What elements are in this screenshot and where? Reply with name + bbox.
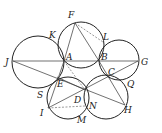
label-L: L: [102, 32, 109, 42]
label-N: N: [88, 101, 98, 111]
label-K: K: [48, 30, 57, 40]
dashed-FL: [75, 23, 103, 42]
line-FB: [75, 23, 99, 61]
label-B: B: [100, 52, 108, 62]
label-S: S: [37, 90, 43, 100]
label-H: H: [123, 105, 132, 115]
label-E: E: [56, 79, 64, 89]
dashed-AD: [64, 61, 85, 90]
label-J: J: [3, 57, 10, 67]
label-M: M: [76, 115, 87, 125]
label-I: I: [39, 108, 44, 118]
label-Q: Q: [127, 79, 135, 89]
geometry-diagram: F K L J A B G C E Q S D N I M H: [0, 0, 162, 133]
label-F: F: [67, 10, 75, 20]
label-D: D: [73, 95, 81, 105]
circle-bottom-right: [84, 75, 128, 119]
label-C: C: [108, 67, 115, 77]
circle-bottom-left: [47, 77, 89, 119]
dashed-IN: [48, 106, 85, 108]
label-G: G: [141, 57, 148, 67]
label-A: A: [65, 52, 73, 62]
